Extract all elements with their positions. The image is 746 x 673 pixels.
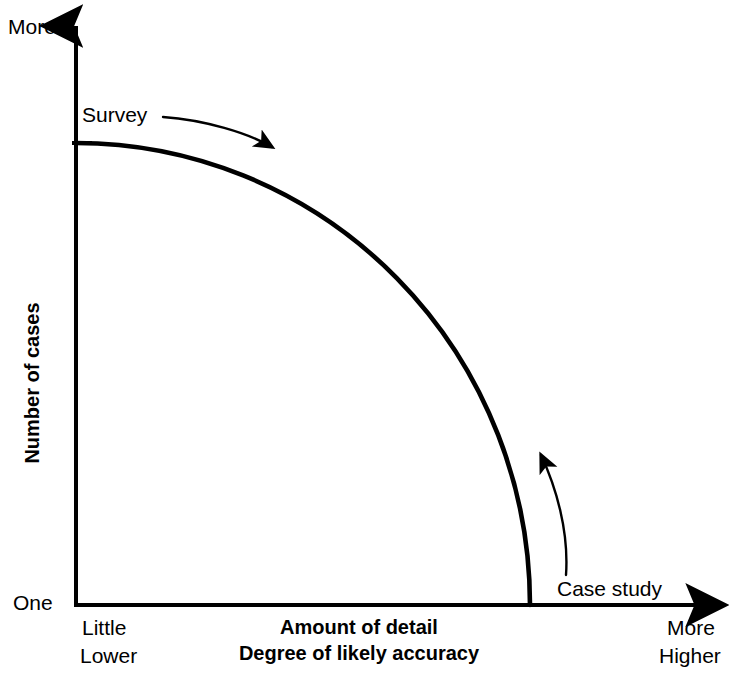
case-study-leader-arrow [541, 455, 566, 575]
x-axis-title-secondary: Degree of likely accuracy [0, 643, 732, 663]
annotation-label-case-study: Case study [557, 578, 662, 599]
y-axis-title: Number of cases [22, 283, 42, 483]
y-axis-min-label: One [13, 592, 53, 613]
data-curve [76, 143, 530, 605]
chart-canvas [0, 0, 746, 673]
survey-leader-arrow [163, 117, 272, 147]
x-axis-title-primary: Amount of detail [0, 617, 732, 637]
y-axis-max-label: More [8, 16, 56, 37]
chart-figure: More One Number of cases Little Lower Mo… [0, 0, 746, 673]
annotation-label-survey: Survey [82, 104, 147, 125]
